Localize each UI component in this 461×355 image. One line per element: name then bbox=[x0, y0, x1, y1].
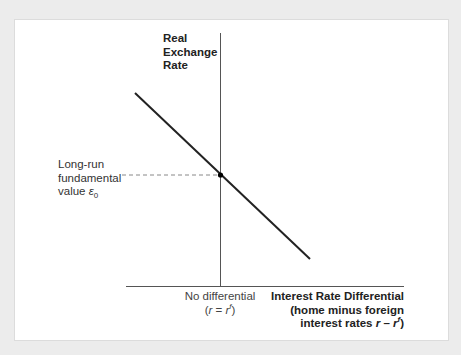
x-axis-label-line: interest rates r – rf) bbox=[262, 317, 404, 331]
equals: = bbox=[212, 304, 225, 316]
text: interest rates bbox=[300, 317, 375, 329]
paren: ) bbox=[400, 317, 404, 329]
x-axis-label-line: Interest Rate Differential bbox=[262, 290, 404, 304]
y-axis-label: Real Exchange Rate bbox=[163, 32, 217, 73]
no-diff-line: No differential bbox=[172, 290, 268, 304]
value-text: value bbox=[58, 185, 89, 197]
x-axis-label-line: (home minus foreign bbox=[262, 304, 404, 318]
subscript-zero: 0 bbox=[94, 191, 98, 200]
no-diff-formula: (r = rf) bbox=[172, 304, 268, 318]
y-axis-label-line: Real bbox=[163, 32, 217, 46]
long-run-line: Long-run bbox=[58, 158, 121, 172]
long-run-value-label: Long-run fundamental value ε0 bbox=[58, 158, 121, 199]
y-axis-label-line: Exchange bbox=[163, 46, 217, 60]
minus: – bbox=[380, 317, 393, 329]
equilibrium-point bbox=[218, 172, 223, 177]
x-axis-label: Interest Rate Differential (home minus f… bbox=[262, 290, 404, 331]
y-axis-label-line: Rate bbox=[163, 59, 217, 73]
long-run-line: fundamental bbox=[58, 172, 121, 186]
no-differential-label: No differential (r = rf) bbox=[172, 290, 268, 317]
long-run-line: value ε0 bbox=[58, 185, 121, 199]
paren: ) bbox=[232, 304, 236, 316]
